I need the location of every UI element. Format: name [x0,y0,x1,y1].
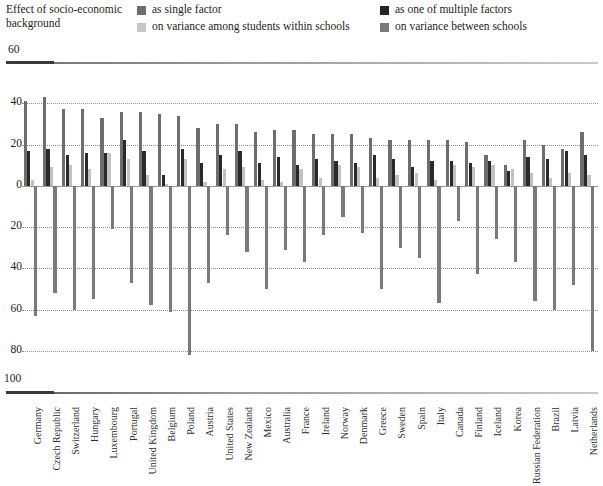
bar[interactable] [437,186,440,304]
bar[interactable] [587,175,590,185]
bar-group[interactable] [542,40,561,390]
bar[interactable] [418,186,421,258]
y-axis-tick-label: 20 [0,137,22,149]
legend-swatch-within-schools [137,23,146,32]
bar-group[interactable] [177,40,196,390]
bar-group[interactable] [312,40,331,390]
bar-group[interactable] [580,40,599,390]
x-axis-label: Italy [435,407,446,425]
bar[interactable] [34,186,37,316]
x-axis-label: Spain [416,407,427,430]
bar-group[interactable] [216,40,235,390]
bar[interactable] [245,186,248,252]
bar[interactable] [533,186,536,302]
bar[interactable] [549,178,552,186]
bar-group[interactable] [388,40,407,390]
bar[interactable] [568,173,571,185]
bar-group[interactable] [292,40,311,390]
bar[interactable] [495,186,498,240]
bar[interactable] [207,186,210,283]
bar[interactable] [92,186,95,299]
bar[interactable] [303,186,306,262]
bar-group[interactable] [196,40,215,390]
bar-group[interactable] [273,40,292,390]
bar-group[interactable] [235,40,254,390]
bar[interactable] [265,186,268,289]
bar[interactable] [341,186,344,217]
bar[interactable] [491,165,494,186]
legend-column-right: as one of multiple factors on variance b… [380,3,527,37]
bar-group[interactable] [62,40,81,390]
bar-group[interactable] [523,40,542,390]
bar[interactable] [188,186,191,355]
bar[interactable] [169,186,172,312]
legend-item-multiple-factors: as one of multiple factors [380,3,527,20]
bar[interactable] [69,165,72,186]
bar[interactable] [457,186,460,221]
bar[interactable] [223,169,226,186]
bar-group[interactable] [24,40,43,390]
bar-group[interactable] [81,40,100,390]
x-axis-label: Germany [32,407,43,444]
x-axis-label: Switzerland [70,407,81,455]
bar[interactable] [572,186,575,285]
bar[interactable] [511,169,514,186]
bar[interactable] [242,167,245,186]
bar[interactable] [299,169,302,186]
bar[interactable] [395,175,398,185]
legend-label-single-factor: as single factor [152,3,222,17]
bar[interactable] [73,186,76,310]
bar-group[interactable] [43,40,62,390]
bar[interactable] [53,186,56,293]
bar[interactable] [149,186,152,306]
bar-group[interactable] [408,40,427,390]
bar[interactable] [399,186,402,248]
bar[interactable] [338,165,341,186]
bar-group[interactable] [465,40,484,390]
bar[interactable] [111,186,114,229]
axis-bottom-rule [6,392,598,394]
bar[interactable] [226,186,229,236]
bar[interactable] [319,178,322,186]
x-axis-label: Luxembourg [108,407,119,458]
bar-group[interactable] [120,40,139,390]
bar-group[interactable] [484,40,503,390]
bar[interactable] [88,169,91,186]
x-axis-label: Belgium [166,407,177,441]
bar[interactable] [514,186,517,262]
bar[interactable] [591,186,594,351]
bar[interactable] [472,167,475,186]
bar-group[interactable] [100,40,119,390]
bar[interactable] [530,173,533,185]
bar[interactable] [415,173,418,185]
bar-group[interactable] [561,40,580,390]
bar[interactable] [127,159,130,186]
bar[interactable] [380,186,383,289]
legend-label-between-schools: on variance between schools [395,20,527,34]
bar-group[interactable] [427,40,446,390]
x-axis-label: Portugal [128,407,139,441]
bar[interactable] [476,186,479,275]
bar-group[interactable] [369,40,388,390]
bar[interactable] [553,186,556,310]
bar[interactable] [361,186,364,233]
bar[interactable] [130,186,133,283]
bar[interactable] [284,186,287,250]
bar-group[interactable] [446,40,465,390]
bar[interactable] [322,186,325,236]
legend-label-multiple-factors: as one of multiple factors [395,3,512,17]
bar[interactable] [50,167,53,186]
bar[interactable] [184,159,187,186]
bar[interactable] [376,178,379,186]
bar-group[interactable] [504,40,523,390]
x-axis-label: Poland [185,407,196,435]
bar-group[interactable] [139,40,158,390]
bar[interactable] [357,167,360,186]
bar[interactable] [107,153,110,186]
bar[interactable] [146,175,149,185]
bar-group[interactable] [350,40,369,390]
bar-group[interactable] [158,40,177,390]
bar[interactable] [453,165,456,186]
bar-group[interactable] [254,40,273,390]
bar-group[interactable] [331,40,350,390]
